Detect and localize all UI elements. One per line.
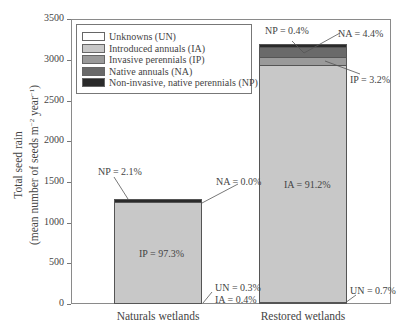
annotation-restored-np: NP = 0.4% bbox=[265, 25, 309, 36]
annotation-leader-lines bbox=[0, 0, 401, 332]
annotation-restored-ia: IA = 91.2% bbox=[284, 179, 330, 190]
annotation-natural-ia: IA = 0.4% bbox=[215, 294, 256, 305]
annotation-natural-np: NP = 2.1% bbox=[98, 166, 142, 177]
annotation-natural-un: UN = 0.3% bbox=[215, 282, 261, 293]
annotation-restored-ip: IP = 3.2% bbox=[350, 74, 390, 85]
annotation-restored-na: NA = 4.4% bbox=[338, 28, 383, 39]
annotation-restored-un: UN = 0.7% bbox=[350, 285, 396, 296]
annotation-natural-ip: IP = 97.3% bbox=[139, 248, 184, 259]
x-category-label-restored: Restored wetlands bbox=[253, 310, 353, 322]
annotation-natural-na: NA = 0.0% bbox=[216, 176, 261, 187]
x-category-label-natural: Naturals wetlands bbox=[108, 310, 208, 322]
